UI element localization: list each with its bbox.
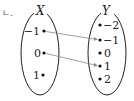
x-point: [42, 29, 45, 32]
mapping-arrow: [46, 54, 97, 66]
y-point: [98, 77, 101, 80]
x-element: 1: [33, 69, 40, 82]
y-element: −1: [103, 34, 119, 47]
y-point: [98, 51, 101, 54]
x-element: 0: [34, 47, 41, 60]
mapping-diagram: ㄴ. X −1 0 1 Y −2 −1 0 1 2: [0, 0, 134, 101]
y-element: 1: [104, 60, 111, 73]
choice-label: ㄴ.: [2, 8, 13, 18]
x-point: [41, 73, 44, 76]
y-point: [98, 38, 101, 41]
set-y-label: Y: [102, 4, 111, 18]
x-point: [42, 51, 45, 54]
y-point: [98, 64, 101, 67]
set-y: Y −2 −1 0 1 2: [88, 4, 126, 95]
y-element: 2: [104, 73, 111, 86]
set-x: X −1 0 1: [21, 4, 59, 95]
set-x-label: X: [35, 4, 45, 18]
y-element: −2: [103, 19, 119, 32]
y-element: 0: [104, 47, 111, 60]
y-point: [98, 23, 101, 26]
x-element: −1: [24, 25, 40, 38]
